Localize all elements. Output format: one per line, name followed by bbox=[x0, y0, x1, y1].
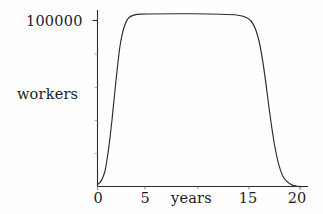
data-series-workers bbox=[98, 14, 302, 187]
chart-figure: 100000 workers years 0 5 15 20 bbox=[0, 0, 323, 214]
plot-area bbox=[0, 0, 323, 214]
x-axis-tick-label-0: 0 bbox=[90, 190, 106, 206]
y-axis-title: workers bbox=[17, 87, 78, 102]
x-axis-tick-label-5: 5 bbox=[137, 190, 153, 206]
x-axis-tick-label-15: 15 bbox=[238, 190, 258, 206]
x-axis-title: years bbox=[171, 191, 212, 206]
y-axis-tick-label-100000: 100000 bbox=[26, 14, 83, 29]
x-axis-tick-label-20: 20 bbox=[287, 190, 307, 206]
